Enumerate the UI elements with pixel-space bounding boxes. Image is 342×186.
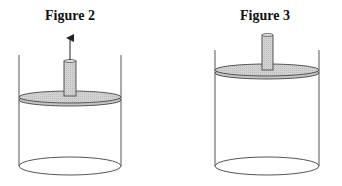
figure-3: Figure 3 bbox=[215, 8, 319, 175]
figure-2: Figure 2 bbox=[19, 8, 121, 175]
cylinder-base bbox=[215, 157, 319, 175]
cylinder-base bbox=[19, 157, 121, 175]
piston-rod bbox=[262, 34, 273, 71]
figure-2-title: Figure 2 bbox=[45, 8, 95, 23]
piston-rod bbox=[64, 60, 76, 97]
diagram-canvas: Figure 2 Figure 3 bbox=[0, 0, 342, 186]
figure-3-title: Figure 3 bbox=[240, 8, 290, 23]
